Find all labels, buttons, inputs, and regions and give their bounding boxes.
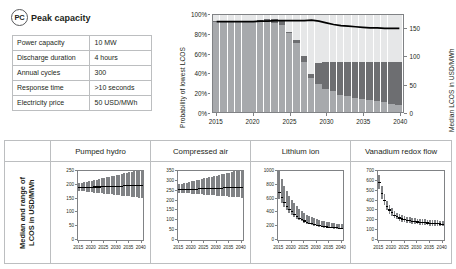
mini-range-bar — [216, 176, 218, 196]
mini-y-tick-mark — [375, 170, 377, 171]
x-tick-mark — [326, 113, 327, 116]
mini-y-tick-label: 250 — [166, 187, 174, 192]
mini-x-tick-label: 2040 — [236, 245, 246, 250]
main-chart-y-axis-label-right: Median LCOS in USD/MWh — [448, 12, 455, 132]
x-tick-label: 2040 — [393, 118, 407, 125]
mini-range-bar — [208, 177, 210, 195]
mini-x-tick-label: 2035 — [424, 245, 434, 250]
mini-range-bands — [278, 171, 343, 240]
x-tick-mark — [363, 113, 364, 116]
mini-y-tick-mark — [175, 229, 177, 230]
mini-y-tick-mark — [175, 200, 177, 201]
main-chart-median-line — [213, 15, 403, 113]
mini-y-axis: 050100150200250 — [53, 170, 77, 241]
panel-title-lithium-ion: Lithium ion — [251, 141, 351, 162]
mini-range-bar — [221, 174, 223, 196]
probability-of-lowest-lcos-chart: Probability of lowest LCOS Median LCOS i… — [178, 2, 456, 136]
mini-range-bar — [226, 173, 228, 196]
mini-x-tick-label: 2025 — [198, 245, 208, 250]
mini-x-tick-label: 2035 — [123, 245, 133, 250]
y-tick-label-left: 60% — [194, 50, 207, 57]
mini-y-tick-mark — [275, 198, 277, 199]
mini-y-tick-mark — [375, 239, 377, 240]
mini-range-bar — [231, 172, 233, 197]
y-tick-label-left: 80% — [194, 30, 207, 37]
mini-x-tick-label: 2020 — [186, 245, 196, 250]
mini-range-bar — [193, 181, 195, 194]
panel-title-compressed-air: Compressed air — [151, 141, 251, 162]
mini-x-tick-label: 2015 — [273, 245, 283, 250]
mini-y-tick-label: 0 — [71, 237, 74, 242]
mini-x-tick-label: 2030 — [111, 245, 121, 250]
mini-y-tick-label: 250 — [66, 168, 74, 173]
mini-x-tick-label: 2020 — [286, 245, 296, 250]
spec-table-row: Power capacity10 MW — [13, 36, 152, 51]
mini-y-tick-label: 150 — [66, 195, 74, 200]
mini-plot-area — [177, 170, 244, 241]
badge-abbrev-circle: PC — [11, 9, 28, 26]
mini-x-tick-mark — [291, 241, 292, 243]
mini-x-tick-mark — [303, 241, 304, 243]
mini-y-tick-mark — [75, 170, 77, 171]
row-label-line2: LCOS in USD/MWh — [28, 179, 37, 246]
mini-y-tick-mark — [175, 209, 177, 210]
mini-y-tick-label: 300 — [366, 207, 374, 212]
mini-y-tick-mark — [175, 180, 177, 181]
mini-x-tick-label: 2015 — [373, 245, 383, 250]
spec-table: Power capacity10 MWDischarge duration4 h… — [12, 35, 152, 111]
mini-x-tick-label: 2040 — [336, 245, 346, 250]
y-tick-mark-left — [208, 113, 211, 114]
mini-y-tick-mark — [175, 239, 177, 240]
mini-range-bar — [201, 179, 203, 194]
mini-y-tick-mark — [275, 184, 277, 185]
mini-y-axis: 050100150200250300350 — [153, 170, 177, 241]
y-tick-label-right: 0 — [410, 110, 414, 117]
mini-y-tick-mark — [375, 209, 377, 210]
main-chart-x-axis: 201520202025203020352040 — [212, 113, 404, 131]
mini-y-tick-mark — [275, 211, 277, 212]
mini-median-marker — [141, 185, 144, 186]
mini-range-bar — [206, 178, 208, 195]
mini-x-tick-mark — [228, 241, 229, 243]
mini-range-bar — [213, 176, 215, 195]
x-tick-label: 2035 — [356, 118, 370, 125]
mini-y-tick-label: 0 — [271, 237, 274, 242]
mini-y-tick-mark — [75, 184, 77, 185]
panel-title-pumped-hydro: Pumped hydro — [51, 141, 151, 162]
mini-x-tick-mark — [116, 241, 117, 243]
x-tick-label: 2015 — [209, 118, 223, 125]
mini-x-tick-mark — [191, 241, 192, 243]
y-tick-mark-left — [208, 54, 211, 55]
spec-table-row: Discharge duration4 hours — [13, 51, 152, 66]
x-tick-label: 2025 — [283, 118, 297, 125]
mini-y-tick-mark — [75, 225, 77, 226]
y-tick-mark-left — [208, 93, 211, 94]
mini-x-tick-mark — [429, 241, 430, 243]
mini-y-tick-label: 1000 — [264, 168, 274, 173]
y-tick-label-left: 100% — [191, 11, 207, 18]
mini-x-tick-mark — [203, 241, 204, 243]
mini-x-tick-mark — [103, 241, 104, 243]
mini-x-tick-label: 2025 — [98, 245, 108, 250]
mini-x-tick-mark — [278, 241, 279, 243]
mini-x-tick-label: 2030 — [411, 245, 421, 250]
mini-range-bar — [233, 171, 235, 197]
peak-capacity-card: PC Peak capacity Power capacity10 MWDisc… — [0, 0, 178, 134]
mini-x-tick-label: 2040 — [437, 245, 447, 250]
y-tick-label-left: 40% — [194, 70, 207, 77]
mini-x-axis: 201520202025203020352040 — [177, 241, 244, 255]
mini-x-axis: 201520202025203020352040 — [77, 241, 144, 255]
mini-x-tick-mark — [378, 241, 379, 243]
mini-x-tick-mark — [128, 241, 129, 243]
mini-y-tick-mark — [175, 219, 177, 220]
mini-y-tick-label: 350 — [166, 168, 174, 173]
mini-x-tick-mark — [341, 241, 342, 243]
peak-capacity-badge: PC Peak capacity — [11, 9, 91, 26]
x-tick-mark — [216, 113, 217, 116]
mini-range-bands — [178, 171, 243, 240]
mini-x-tick-mark — [178, 241, 179, 243]
mini-x-tick-mark — [141, 241, 142, 243]
mini-range-bar — [223, 174, 225, 196]
y-tick-label-left: 0% — [198, 110, 207, 117]
mini-median-marker — [241, 187, 244, 188]
